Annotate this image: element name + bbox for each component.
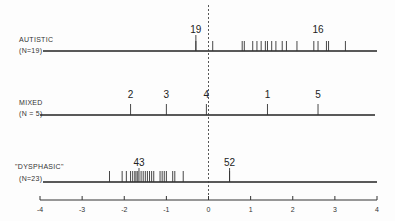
point-annotation: 3: [164, 89, 170, 100]
x-tick-label: 0: [207, 206, 211, 213]
point-annotation: 2: [128, 89, 134, 100]
x-tick-label: -2: [121, 206, 127, 213]
x-tick-label: -1: [163, 206, 169, 213]
point-annotation: 52: [224, 157, 236, 168]
plot-area: 1916234154352-4-3-2-101234: [0, 0, 395, 221]
x-tick-label: 4: [375, 206, 379, 213]
x-tick-label: 3: [333, 206, 337, 213]
point-annotation: 19: [190, 24, 202, 35]
strip-chart: AUTISTIC (N=19) MIXED (N = 5) "DYSPHASIC…: [0, 0, 395, 221]
x-tick-label: -4: [37, 206, 43, 213]
x-tick-label: 2: [291, 206, 295, 213]
point-annotation: 16: [312, 24, 324, 35]
point-annotation: 1: [265, 89, 271, 100]
x-tick-label: 1: [249, 206, 253, 213]
point-annotation: 5: [315, 89, 321, 100]
point-annotation: 43: [133, 157, 145, 168]
x-tick-label: -3: [79, 206, 85, 213]
